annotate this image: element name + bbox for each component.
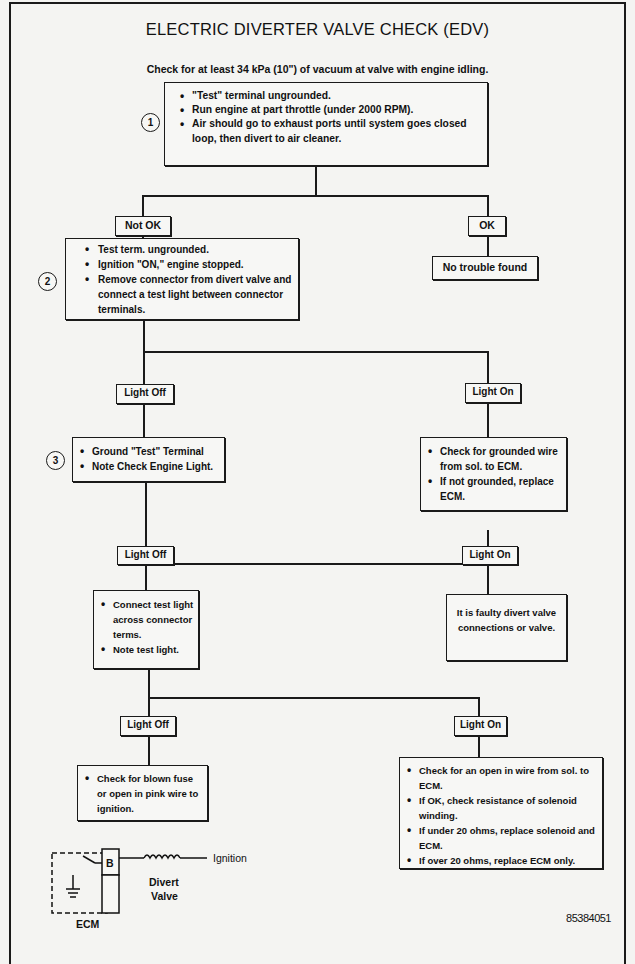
outcome-item: Check for an open in wire from sol. to E… <box>406 763 598 793</box>
outcome-item: If under 20 ohms, replace solenoid and E… <box>406 823 598 853</box>
outcome-faulty-valve-box: It is faulty divert valve connections or… <box>446 594 567 661</box>
connector-line <box>143 351 488 353</box>
connector-line <box>145 565 147 591</box>
branch-light-off: Light Off <box>120 716 176 736</box>
outcome-item: Connect test light across connector term… <box>100 597 194 642</box>
step-number-3: 3 <box>46 451 65 470</box>
connector-line <box>487 195 489 217</box>
branch-light-off: Light Off <box>117 546 174 565</box>
step-1-item: Run engine at part throttle (under 2000 … <box>179 103 479 117</box>
connector-line <box>487 351 489 384</box>
switch-icon <box>83 856 95 863</box>
step-1-item: Air should go to exhaust ports until sys… <box>179 117 479 145</box>
branch-ok: OK <box>468 216 506 236</box>
connector-line <box>143 320 145 352</box>
step-2-item: Ignition "ON," engine stopped. <box>84 257 292 272</box>
divert-valve-label-1: Divert <box>149 876 179 888</box>
step-2-box: Test term. ungrounded. Ignition "ON," en… <box>65 238 299 320</box>
step-2-item: Remove connector from divert valve and c… <box>84 272 292 317</box>
connector-line <box>142 195 144 217</box>
figure-id: 85384051 <box>566 912 611 924</box>
outcome-blown-fuse-box: Check for blown fuse or open in pink wir… <box>77 765 208 821</box>
branch-not-ok: Not OK <box>115 216 171 236</box>
step-2-item: Test term. ungrounded. <box>84 242 292 257</box>
connector-line <box>148 697 150 717</box>
ignition-label: Ignition <box>213 852 247 864</box>
step-3-item: Note Check Engine Light. <box>79 459 220 474</box>
diagram-title: ELECTRIC DIVERTER VALVE CHECK (EDV) <box>0 20 635 39</box>
outcome-item: If OK, check resistance of solenoid wind… <box>406 793 598 823</box>
connector-line <box>478 697 480 717</box>
outcome-item: Check for grounded wire from sol. to ECM… <box>427 444 562 474</box>
outcome-item: If not grounded, replace ECM. <box>427 474 562 504</box>
connector-line <box>145 563 488 565</box>
connector-line <box>148 736 150 766</box>
outcome-no-trouble: No trouble found <box>432 256 538 280</box>
ecm-label: ECM <box>76 918 100 930</box>
connector-line <box>143 404 145 438</box>
step-number-1: 1 <box>141 113 160 132</box>
step-1-box: "Test" terminal ungrounded. Run engine a… <box>164 82 488 166</box>
connector-line <box>478 736 480 758</box>
connector-line <box>148 669 150 698</box>
step-1-item: "Test" terminal ungrounded. <box>179 89 479 103</box>
outcome-item: Note test light. <box>100 642 194 657</box>
branch-light-on: Light On <box>454 716 507 736</box>
branch-light-off: Light Off <box>116 384 174 404</box>
step-3-box: Ground "Test" Terminal Note Check Engine… <box>72 437 225 482</box>
outcome-item: Check for blown fuse or open in pink wir… <box>84 771 203 816</box>
connector-line <box>315 166 317 196</box>
connector-line <box>143 351 145 385</box>
circuit-diagram: B Ignition Divert Valve ECM <box>40 845 280 935</box>
connector-line <box>487 236 489 257</box>
outcome-item: If over 20 ohms, replace ECM only. <box>406 853 598 868</box>
diagram-subtitle: Check for at least 34 kPa (10") of vacuu… <box>0 63 635 75</box>
connector-line <box>487 530 489 547</box>
ecm-outline <box>52 853 107 913</box>
outcome-open-wire-box: Check for an open in wire from sol. to E… <box>399 757 603 869</box>
outcome-grounded-wire-box: Check for grounded wire from sol. to ECM… <box>420 437 567 511</box>
terminal-b-label: B <box>106 857 114 869</box>
step-number-2: 2 <box>38 272 57 291</box>
connector-line <box>145 530 147 547</box>
solenoid-coil-icon <box>144 855 180 858</box>
connector-line <box>487 403 489 438</box>
connector-line <box>487 565 489 595</box>
branch-light-on: Light On <box>465 383 521 403</box>
connector-line <box>148 697 479 699</box>
branch-light-on: Light On <box>462 546 518 565</box>
connector-line <box>142 195 488 197</box>
outcome-connect-test-light-box: Connect test light across connector term… <box>93 590 199 669</box>
divert-valve-label-2: Valve <box>151 890 178 902</box>
step-3-item: Ground "Test" Terminal <box>79 444 220 459</box>
